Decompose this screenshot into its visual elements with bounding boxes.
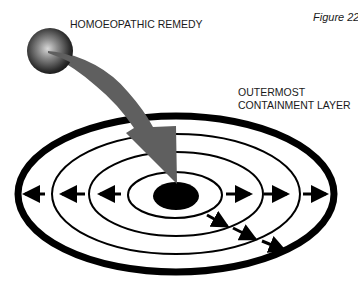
core-center <box>153 182 199 210</box>
layer-label-line1: OUTERMOST <box>238 86 306 98</box>
containment-diagram: Figure 22 HOMOEOPATHIC REMEDY OUTERMOST … <box>0 0 358 293</box>
figure-caption: Figure 22 <box>313 11 358 23</box>
arrow-diag-3-icon <box>262 241 284 250</box>
remedy-label: HOMOEOPATHIC REMEDY <box>70 18 203 30</box>
remedy-sphere-icon <box>27 28 73 74</box>
arrow-diag-2-icon <box>233 228 255 239</box>
arrow-diag-1-icon <box>207 215 227 226</box>
layer-label-line2: CONTAINMENT LAYER <box>238 99 351 111</box>
